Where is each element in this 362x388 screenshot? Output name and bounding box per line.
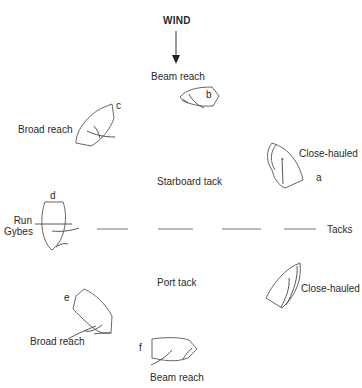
tacks-label: Tacks <box>327 224 353 235</box>
boat-close-hauled-port-icon <box>266 263 300 308</box>
boat-c-icon <box>76 104 115 146</box>
boat-f-label: Beam reach <box>150 372 204 383</box>
wind-arrow-icon <box>172 31 180 64</box>
starboard-tack-label: Starboard tack <box>157 176 222 187</box>
boat-a-label: Close-hauled <box>299 148 358 159</box>
boat-a-letter: a <box>316 172 322 183</box>
boat-b-label: Beam reach <box>151 71 205 82</box>
boat-d-label-run: Run <box>8 215 32 226</box>
boat-e-letter: e <box>64 292 70 303</box>
wind-label: WIND <box>163 15 191 26</box>
points-of-sail-diagram: WIND Beam reach b c Broad reach Close-ha… <box>0 0 362 388</box>
boat-a-icon <box>268 143 304 188</box>
boat-close-hauled-port-label: Close-hauled <box>301 283 360 294</box>
boat-d-label-gybes: Gybes <box>4 226 32 237</box>
boat-e-label: Broad reach <box>30 336 84 347</box>
port-tack-label: Port tack <box>157 277 196 288</box>
boat-d-icon <box>35 202 79 250</box>
boat-c-label: Broad reach <box>18 124 72 135</box>
boat-c-letter: c <box>116 100 121 111</box>
boat-d-letter: d <box>50 190 56 201</box>
boat-f-icon <box>151 338 197 365</box>
boat-f-letter: f <box>139 342 142 353</box>
boat-e-icon <box>68 289 112 339</box>
boat-b-icon <box>180 87 219 108</box>
boat-b-letter: b <box>206 89 212 100</box>
